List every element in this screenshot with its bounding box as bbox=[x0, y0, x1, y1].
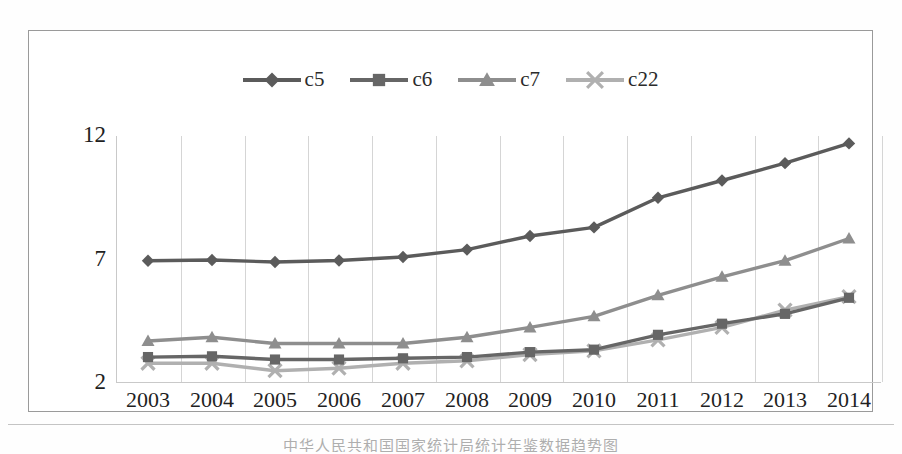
y-axis-tick-label: 12 bbox=[46, 123, 106, 146]
diamond-marker bbox=[524, 230, 536, 242]
page-divider bbox=[8, 424, 894, 425]
legend-line-c5 bbox=[243, 78, 301, 82]
series-line bbox=[148, 239, 849, 344]
y-axis-tick-label: 2 bbox=[46, 370, 106, 393]
gridline bbox=[882, 136, 883, 382]
series-c7 bbox=[141, 232, 855, 348]
diamond-marker bbox=[779, 157, 791, 169]
figure-frame: c5c6c7c22 1272 2003200420052006200720082… bbox=[28, 30, 873, 412]
y-axis-tick-label: 7 bbox=[46, 247, 106, 270]
x-axis-tick-label: 2009 bbox=[508, 389, 552, 411]
diamond-marker bbox=[843, 137, 855, 149]
legend-item-c22[interactable]: c22 bbox=[566, 69, 658, 90]
legend-line-c22 bbox=[566, 78, 624, 82]
square-marker bbox=[207, 351, 217, 361]
legend-item-c7[interactable]: c7 bbox=[458, 69, 540, 90]
square-marker bbox=[653, 330, 663, 340]
diamond-marker bbox=[264, 72, 279, 87]
legend-item-c6[interactable]: c6 bbox=[350, 69, 432, 90]
diamond-marker bbox=[461, 243, 473, 255]
square-marker bbox=[398, 353, 408, 363]
x-axis-tick-label: 2010 bbox=[572, 389, 616, 411]
series-line bbox=[148, 143, 849, 262]
plot-area bbox=[116, 136, 881, 383]
legend-line-c6 bbox=[350, 78, 408, 82]
diamond-marker bbox=[397, 251, 409, 263]
square-marker bbox=[270, 354, 280, 364]
x-axis: 2003200420052006200720082009201020112012… bbox=[116, 389, 881, 421]
triangle-marker bbox=[842, 232, 855, 243]
series-c6 bbox=[143, 293, 854, 365]
legend-label-c7: c7 bbox=[519, 69, 540, 90]
figure-caption: 中华人民共和国国家统计局统计年鉴数据趋势图 bbox=[0, 434, 902, 452]
legend-label-c6: c6 bbox=[411, 69, 432, 90]
legend-item-c5[interactable]: c5 bbox=[243, 69, 325, 90]
x-axis-tick-label: 2006 bbox=[317, 389, 361, 411]
square-marker bbox=[525, 347, 535, 357]
square-marker bbox=[589, 345, 599, 355]
diamond-marker bbox=[206, 254, 218, 266]
series-c5 bbox=[142, 137, 855, 268]
x-axis-tick-label: 2003 bbox=[126, 389, 170, 411]
square-marker bbox=[717, 319, 727, 329]
chart-legend: c5c6c7c22 bbox=[29, 69, 872, 90]
x-axis-tick-label: 2014 bbox=[827, 389, 871, 411]
square-marker bbox=[373, 73, 385, 85]
diamond-marker bbox=[333, 254, 345, 266]
series-layer bbox=[116, 136, 881, 383]
x-axis-tick-label: 2013 bbox=[763, 389, 807, 411]
legend-label-c22: c22 bbox=[627, 69, 658, 90]
triangle-marker bbox=[479, 72, 495, 86]
diamond-marker bbox=[269, 256, 281, 268]
square-marker bbox=[334, 354, 344, 364]
figure-page: c5c6c7c22 1272 2003200420052006200720082… bbox=[0, 0, 902, 454]
legend-label-c5: c5 bbox=[304, 69, 325, 90]
square-marker bbox=[143, 352, 153, 362]
diamond-marker bbox=[142, 255, 154, 267]
square-marker bbox=[844, 293, 854, 303]
x-axis-tick-label: 2005 bbox=[253, 389, 297, 411]
y-axis: 1272 bbox=[44, 136, 106, 383]
square-marker bbox=[780, 309, 790, 319]
x-axis-tick-label: 2004 bbox=[190, 389, 234, 411]
x-axis-tick-label: 2008 bbox=[445, 389, 489, 411]
series-line bbox=[148, 298, 849, 360]
x-axis-tick-label: 2011 bbox=[636, 389, 679, 411]
square-marker bbox=[462, 352, 472, 362]
x-axis-tick-label: 2012 bbox=[700, 389, 744, 411]
diamond-marker bbox=[716, 174, 728, 186]
diamond-marker bbox=[588, 221, 600, 233]
x-marker bbox=[587, 72, 603, 88]
diamond-marker bbox=[652, 192, 664, 204]
x-axis-tick-label: 2007 bbox=[381, 389, 425, 411]
legend-line-c7 bbox=[458, 78, 516, 82]
